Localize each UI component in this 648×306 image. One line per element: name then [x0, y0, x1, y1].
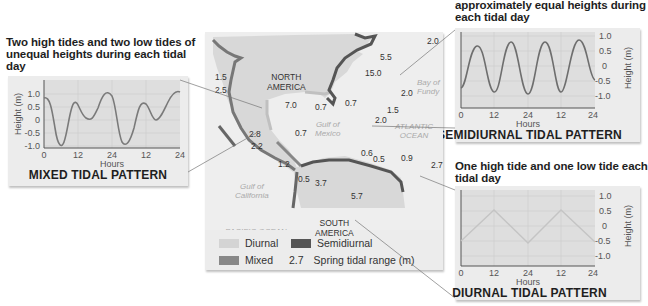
- x-tick: 0: [41, 150, 46, 160]
- x-tick: 12: [489, 110, 499, 120]
- tidal-range-value: 0.5: [298, 174, 310, 184]
- bay-of-fundy-label: Bay of Fundy: [417, 78, 440, 96]
- caption-line: tidal day: [455, 172, 648, 184]
- mixed-tidal-chart: 1.0 0.5 0 -0.5 -1.0 Height (m) 0 12 24 1…: [8, 76, 188, 186]
- y-tick: 1.0: [599, 31, 612, 41]
- y-tick: 0: [602, 61, 607, 71]
- y-tick: 0.5: [599, 46, 612, 56]
- legend-mixed: Mixed: [219, 254, 273, 266]
- x-tick: 12: [73, 150, 83, 160]
- tidal-range-value: 1.2: [278, 159, 290, 169]
- tidal-range-value: 5.5: [380, 52, 392, 62]
- tidal-range-value: 2.2: [251, 141, 263, 151]
- tidal-range-value: 2.7: [431, 160, 443, 170]
- tidal-range-value: 2.0: [427, 36, 439, 46]
- tidal-range-value: 7.0: [285, 100, 297, 110]
- label-line: SOUTH: [315, 218, 354, 228]
- label-line: California: [235, 191, 269, 200]
- caption-line: unequal heights during each tidal: [6, 48, 206, 60]
- mixed-swatch: [219, 256, 239, 265]
- tidal-range-value: 1.5: [215, 72, 227, 82]
- semidiurnal-tidal-chart: 1.0 0.5 0 -0.5 -1.0 Height (m) 0 12 24 1…: [455, 28, 640, 142]
- y-tick: 1.0: [27, 89, 40, 99]
- north-america-label: NORTH AMERICA: [267, 72, 306, 92]
- y-tick: -1.0: [24, 141, 40, 151]
- tidal-range-value: 0.7: [315, 102, 327, 112]
- diurnal-tidal-chart: 1.0 0.5 0 -0.5 -1.0 Height (m) 0 12 24 1…: [455, 186, 640, 300]
- gulf-of-mexico-label: Gulf of Mexico: [315, 120, 340, 138]
- tidal-range-value: 5.7: [351, 191, 363, 201]
- legend-label: Mixed: [245, 254, 273, 266]
- gulf-of-california-label: Gulf of California: [235, 182, 269, 200]
- x-tick: 24: [175, 150, 185, 160]
- legend-label: Diurnal: [245, 237, 278, 249]
- x-tick: 0: [458, 110, 463, 120]
- label-line: OCEAN: [395, 131, 433, 140]
- semidiurnal-swatch: [291, 239, 311, 248]
- y-tick: 1.0: [599, 191, 612, 201]
- legend-sample-value: 2.7: [289, 254, 304, 266]
- y-tick: -0.5: [595, 76, 611, 86]
- tidal-range-value: 1.5: [387, 105, 399, 115]
- y-axis-label: Height (m): [623, 47, 633, 89]
- caption-line: approximately equal heights during: [455, 0, 648, 11]
- y-tick: -1.0: [595, 251, 611, 261]
- tidal-range-value: 0.7: [295, 128, 307, 138]
- label-line: Mexico: [315, 129, 340, 138]
- tidal-range-value: 2.0: [375, 115, 387, 125]
- label-line: NORTH: [267, 72, 306, 82]
- y-tick: 0.5: [27, 102, 40, 112]
- tidal-range-value: 2.5: [215, 85, 227, 95]
- semidiurnal-caption: approximately equal heights during each …: [455, 0, 648, 23]
- label-line: Gulf of: [315, 120, 340, 129]
- label-line: AMERICA: [315, 228, 354, 238]
- diurnal-swatch: [219, 239, 239, 248]
- x-tick: 12: [556, 110, 566, 120]
- legend-label: Spring tidal range (m): [314, 254, 415, 266]
- south-america-label: SOUTH AMERICA: [315, 218, 354, 238]
- y-tick: -1.0: [595, 91, 611, 101]
- diurnal-chart-plot: 1.0 0.5 0 -0.5 -1.0 Height (m) 0 12 24 1…: [455, 186, 640, 300]
- x-tick: 0: [458, 268, 463, 278]
- mixed-chart-title: MIXED TIDAL PATTERN: [8, 168, 188, 182]
- label-line: Gulf of: [235, 182, 269, 191]
- semidiurnal-chart-title: SEMIDIURNAL TIDAL PATTERN: [437, 128, 622, 142]
- tidal-range-value: 0.6: [361, 148, 373, 158]
- legend-tidal-range: 2.7 Spring tidal range (m): [289, 254, 415, 266]
- x-tick: 12: [556, 268, 566, 278]
- legend-diurnal: Diurnal: [219, 237, 278, 249]
- atlantic-ocean-label: ATLANTIC OCEAN: [395, 122, 433, 140]
- diurnal-caption: One high tide and one low tide each tida…: [455, 160, 648, 184]
- x-tick: 12: [141, 150, 151, 160]
- label-line: Fundy: [417, 87, 440, 96]
- y-tick: -0.5: [595, 236, 611, 246]
- tidal-range-value: 2.8: [249, 129, 261, 139]
- tidal-range-value: 0.9: [401, 153, 413, 163]
- x-tick: 24: [588, 268, 598, 278]
- x-tick: 24: [588, 110, 598, 120]
- tidal-range-value: 2.0: [401, 88, 413, 98]
- label-line: Bay of: [417, 78, 440, 87]
- x-tick: 12: [489, 268, 499, 278]
- legend-label: Semidiurnal: [317, 237, 372, 249]
- y-tick: -0.5: [24, 128, 40, 138]
- caption-line: One high tide and one low tide each: [455, 160, 648, 172]
- tidal-range-value: 0.5: [373, 154, 385, 164]
- tidal-map: NORTH AMERICA SOUTH AMERICA Gulf of Mexi…: [205, 32, 443, 270]
- mixed-caption: Two high tides and two low tides of uneq…: [6, 36, 206, 72]
- diurnal-chart-title: DIURNAL TIDAL PATTERN: [437, 286, 622, 300]
- tidal-range-value: 0.7: [345, 98, 357, 108]
- y-tick: 0: [602, 221, 607, 231]
- y-axis-label: Height (m): [13, 93, 23, 135]
- y-tick: 0: [35, 115, 40, 125]
- caption-line: Two high tides and two low tides of: [6, 36, 206, 48]
- label-line: ATLANTIC: [395, 122, 433, 131]
- y-axis-label: Height (m): [623, 205, 633, 247]
- y-tick: 0.5: [599, 206, 612, 216]
- semidiurnal-chart-plot: 1.0 0.5 0 -0.5 -1.0 Height (m) 0 12 24 1…: [455, 28, 640, 142]
- label-line: AMERICA: [267, 82, 306, 92]
- tidal-range-value: 3.7: [315, 178, 327, 188]
- tidal-range-value: 15.0: [365, 68, 382, 78]
- caption-line: each tidal day: [455, 11, 648, 23]
- caption-line: day: [6, 60, 206, 72]
